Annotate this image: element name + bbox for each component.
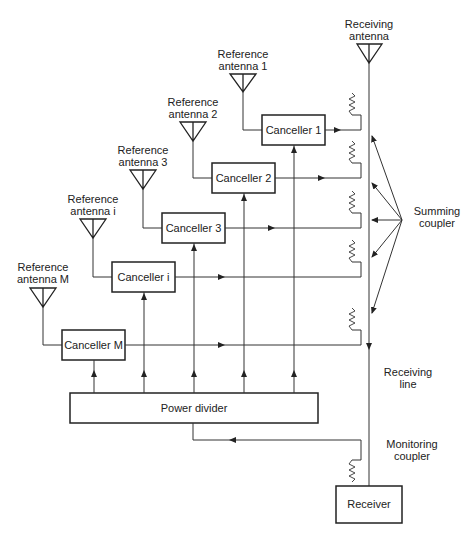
receiving-line-label-1: Receiving bbox=[384, 366, 432, 378]
resistor-icon bbox=[349, 191, 355, 213]
resistor-icon bbox=[349, 240, 355, 262]
feed-line-2 bbox=[193, 141, 212, 178]
feed-line-i bbox=[93, 238, 112, 277]
output-line-3 bbox=[225, 213, 361, 231]
feed-line-3 bbox=[143, 189, 162, 228]
receiving-line-arrow bbox=[366, 343, 372, 350]
reference-antenna-2-label-2: antenna 2 bbox=[169, 108, 218, 120]
canceller-2: Canceller 2 bbox=[212, 163, 275, 193]
reference-antenna-1-label-2: antenna 1 bbox=[219, 60, 268, 72]
antenna-icon bbox=[30, 288, 56, 307]
reference-antenna-m: Reference antenna M bbox=[17, 261, 69, 307]
feed-line-m bbox=[43, 307, 62, 345]
reference-antenna-3: Reference antenna 3 bbox=[118, 144, 169, 189]
resistor-icon bbox=[349, 308, 355, 330]
reference-antenna-m-label-1: Reference bbox=[18, 261, 69, 273]
receiving-line-label-2: line bbox=[399, 378, 416, 390]
reference-antenna-3-label-1: Reference bbox=[118, 144, 169, 156]
reference-antenna-1: Reference antenna 1 bbox=[218, 48, 269, 92]
antenna-icon bbox=[357, 44, 382, 63]
receiving-antenna-label-2: antenna bbox=[349, 30, 390, 42]
output-line-m bbox=[125, 330, 361, 348]
canceller-i-label: Canceller i bbox=[118, 271, 170, 283]
power-divider-label: Power divider bbox=[161, 402, 228, 414]
monitoring-coupler bbox=[193, 423, 361, 482]
reference-antenna-i-label-1: Reference bbox=[68, 193, 119, 205]
canceller-system-diagram: Receiving antenna Reference antenna 1 Re… bbox=[0, 0, 467, 539]
power-divider: Power divider bbox=[70, 393, 318, 423]
divider-feed-3 bbox=[191, 243, 197, 393]
antenna-icon bbox=[230, 74, 256, 92]
monitoring-coupler-label-1: Monitoring bbox=[386, 438, 437, 450]
summing-coupler-label-2: coupler bbox=[419, 217, 455, 229]
resistor-icon bbox=[349, 93, 355, 115]
divider-feed-i bbox=[141, 292, 147, 393]
summing-coupler-label-1: Summing bbox=[414, 205, 460, 217]
summing-coupler-pointers bbox=[372, 136, 402, 313]
receiving-antenna: Receiving antenna bbox=[345, 18, 393, 63]
resistor-icon bbox=[349, 141, 355, 163]
receiver: Receiver bbox=[336, 486, 402, 523]
reference-antenna-m-label-2: antenna M bbox=[17, 273, 69, 285]
output-line-i bbox=[175, 262, 361, 280]
feed-line-1 bbox=[243, 92, 262, 130]
receiving-antenna-label-1: Receiving bbox=[345, 18, 393, 30]
divider-feed-m bbox=[91, 360, 97, 393]
reference-antenna-1-label-1: Reference bbox=[218, 48, 269, 60]
output-line-1 bbox=[325, 115, 361, 133]
canceller-m: Canceller M bbox=[62, 330, 125, 360]
monitoring-coupler-label-2: coupler bbox=[394, 450, 430, 462]
antenna-icon bbox=[130, 170, 156, 189]
reference-antenna-2-label-1: Reference bbox=[168, 96, 219, 108]
canceller-1-label: Canceller 1 bbox=[266, 124, 322, 136]
antenna-icon bbox=[80, 219, 106, 238]
canceller-3-label: Canceller 3 bbox=[166, 222, 222, 234]
divider-feed-2 bbox=[241, 193, 247, 393]
output-line-2 bbox=[275, 163, 361, 181]
antenna-icon bbox=[180, 122, 206, 141]
canceller-1: Canceller 1 bbox=[262, 115, 325, 145]
receiver-label: Receiver bbox=[347, 498, 391, 510]
reference-antenna-2: Reference antenna 2 bbox=[168, 96, 219, 141]
canceller-2-label: Canceller 2 bbox=[216, 172, 272, 184]
reference-antenna-i-label-2: antenna i bbox=[70, 205, 115, 217]
canceller-m-label: Canceller M bbox=[64, 339, 123, 351]
divider-feed-1 bbox=[291, 145, 297, 393]
reference-antenna-i: Reference antenna i bbox=[68, 193, 119, 238]
reference-antenna-3-label-2: antenna 3 bbox=[119, 156, 168, 168]
canceller-i: Canceller i bbox=[112, 262, 175, 292]
resistor-icon bbox=[349, 460, 355, 482]
canceller-3: Canceller 3 bbox=[162, 213, 225, 243]
